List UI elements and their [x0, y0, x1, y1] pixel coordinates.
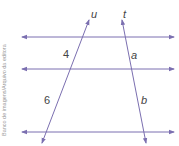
label-u: u: [91, 8, 97, 20]
segment-label-6: 6: [44, 94, 50, 106]
thales-diagram: u t 4 a 6 b: [0, 0, 179, 146]
label-t: t: [123, 8, 127, 20]
transversal-u: [42, 20, 89, 143]
segment-label-a: a: [131, 49, 137, 61]
segment-label-4: 4: [63, 48, 69, 60]
segment-label-b: b: [141, 94, 147, 106]
transversal-t: [122, 20, 146, 143]
